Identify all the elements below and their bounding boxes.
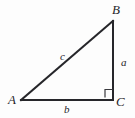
right-triangle-figure: A B C c a b (0, 0, 135, 118)
vertex-label-b: B (112, 3, 120, 16)
side-label-a: a (121, 57, 127, 68)
triangle-drawing (0, 0, 135, 118)
side-label-b: b (64, 104, 70, 115)
right-angle-marker-icon (105, 90, 113, 98)
side-label-c: c (60, 51, 65, 62)
side-c-hypotenuse-line (21, 21, 113, 100)
vertex-label-a: A (8, 93, 16, 106)
vertex-label-c: C (116, 95, 125, 108)
